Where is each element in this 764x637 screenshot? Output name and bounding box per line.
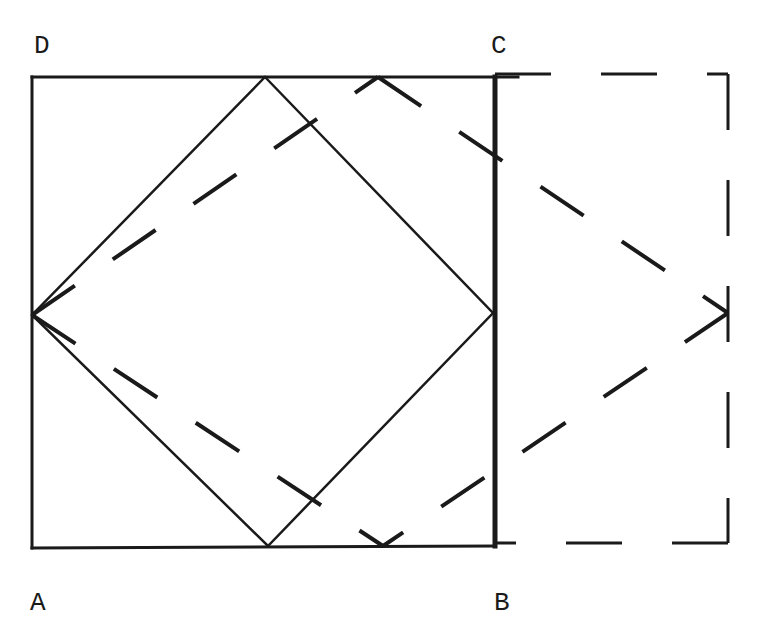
label-b: B (494, 588, 510, 618)
label-d: D (34, 31, 50, 61)
dashed-quadrilateral (32, 77, 728, 546)
inscribed-square (32, 77, 493, 546)
square-diagram: D C A B (0, 0, 764, 637)
dashed-rectangle (495, 74, 728, 543)
label-a: A (30, 588, 46, 618)
label-c: C (491, 31, 507, 61)
side-ab (32, 546, 495, 548)
